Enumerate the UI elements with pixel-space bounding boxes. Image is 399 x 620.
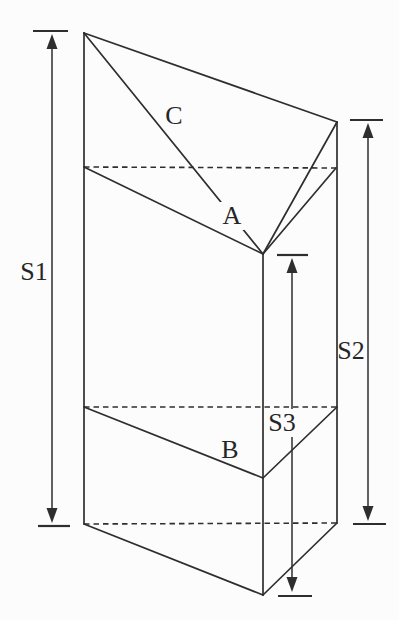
edge-top-back-edge bbox=[84, 33, 337, 122]
dim-arrowhead-down-s2-icon bbox=[363, 506, 374, 521]
face-label-c: C bbox=[165, 103, 182, 129]
dim-arrowhead-down-s1-icon bbox=[47, 508, 58, 523]
prism-diagram-svg bbox=[0, 0, 399, 620]
hidden-edge-cut1-back-edge bbox=[84, 167, 336, 168]
dim-arrowhead-up-s2-icon bbox=[363, 123, 374, 138]
dimension-label-s1: S1 bbox=[20, 259, 47, 285]
dimension-label-s2: S2 bbox=[337, 338, 364, 364]
edge-top-right-edge bbox=[263, 122, 337, 254]
hidden-edge-bottom-back-edge bbox=[84, 523, 337, 524]
edge-cut1-right-edge bbox=[263, 168, 336, 254]
dimension-label-s3: S3 bbox=[265, 409, 298, 437]
prism-figure: C A B S1 S2 S3 bbox=[0, 0, 399, 620]
face-label-b: B bbox=[221, 437, 238, 463]
edge-bottom-left-edge bbox=[84, 524, 263, 595]
dim-arrowhead-up-s3-icon bbox=[287, 258, 298, 273]
face-label-a: A bbox=[220, 202, 245, 230]
edge-bottom-right-edge bbox=[263, 523, 337, 595]
dim-arrowhead-up-s1-icon bbox=[47, 34, 58, 49]
dim-arrowhead-down-s3-icon bbox=[287, 577, 298, 592]
